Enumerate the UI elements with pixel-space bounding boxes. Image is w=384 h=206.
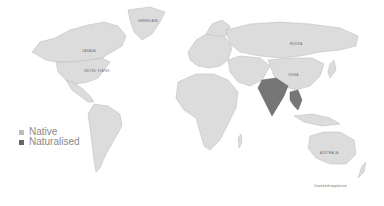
region-madagascar (238, 134, 242, 148)
label-canada: CANADA (82, 49, 96, 53)
label-china: CHINA (288, 73, 298, 77)
label-australia: AUSTRALIA (320, 151, 338, 155)
legend: Native Naturalised (19, 127, 80, 147)
swatch-native (19, 130, 24, 135)
label-russia: RUSSIA (290, 42, 302, 46)
region-canada (32, 22, 126, 62)
legend-label-naturalised: Naturalised (29, 137, 80, 147)
region-africa (176, 74, 238, 150)
region-greenland (128, 7, 165, 40)
swatch-naturalised (19, 140, 24, 145)
region-indonesia (294, 114, 340, 126)
label-united-states: UNITED STATES (84, 69, 110, 73)
region-russia (226, 22, 358, 58)
world-map: GREENLAND CANADA UNITED STATES RUSSIA CH… (0, 0, 384, 206)
region-new-zealand (358, 162, 366, 178)
legend-item-naturalised: Naturalised (19, 137, 80, 147)
map-credit: Created with mapchart.net (314, 185, 347, 188)
region-india (258, 78, 288, 116)
region-south-america (88, 104, 122, 172)
region-indochina (290, 90, 302, 110)
label-greenland: GREENLAND (138, 19, 159, 23)
region-australia (308, 132, 356, 164)
region-scandinavia (206, 20, 230, 36)
region-japan (328, 60, 336, 78)
